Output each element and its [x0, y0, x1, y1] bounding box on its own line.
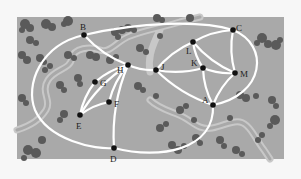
- junction-dot: [232, 70, 238, 76]
- junction-dot: [230, 27, 236, 33]
- junction-dot: [111, 145, 117, 151]
- junction-dot: [125, 62, 131, 68]
- node-label: G: [100, 78, 107, 88]
- tree-icon: [38, 136, 46, 144]
- tree-icon: [227, 115, 233, 121]
- tree-icon: [153, 93, 159, 99]
- node-label: D: [110, 154, 117, 164]
- tree-icon: [157, 33, 163, 39]
- node-label: H: [117, 65, 124, 75]
- junction-dot: [106, 99, 112, 105]
- junction-dot: [200, 65, 206, 71]
- junction-dot: [92, 79, 98, 85]
- junction-dot: [210, 102, 216, 108]
- node-label: M: [240, 69, 248, 79]
- junction-dot: [77, 112, 83, 118]
- node-label: J: [161, 62, 165, 72]
- junction-dot: [190, 39, 196, 45]
- junction-dot: [153, 67, 159, 73]
- node-label: E: [76, 121, 82, 131]
- tree-icon: [253, 93, 259, 99]
- junction-dot: [81, 32, 87, 38]
- node-label: B: [80, 22, 86, 32]
- tree-icon: [191, 117, 197, 123]
- node-label: A: [202, 95, 209, 105]
- map-background: [17, 17, 284, 159]
- node-label: L: [186, 46, 192, 56]
- tree-icon: [186, 14, 194, 22]
- node-label: C: [236, 23, 242, 33]
- node-label: K: [191, 58, 198, 68]
- node-label: F: [114, 99, 119, 109]
- trail-map: ABCDEFGHJKLM: [0, 0, 301, 179]
